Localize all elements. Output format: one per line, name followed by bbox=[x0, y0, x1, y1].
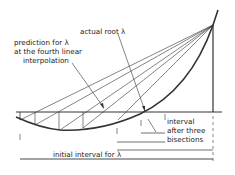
interval-label-2: after three bbox=[167, 126, 206, 135]
initial-interval-label: initial interval for λ bbox=[53, 150, 122, 159]
actual-root-label: actual root λ bbox=[80, 27, 126, 36]
prediction-label-2: at the fourth linear bbox=[14, 47, 82, 56]
prediction-label-3: interpolation bbox=[23, 56, 69, 65]
secant-line-4 bbox=[83, 25, 213, 128]
secant-line-5 bbox=[118, 25, 213, 120]
actual-root-arrowhead bbox=[142, 106, 145, 112]
actual-root-leader bbox=[118, 34, 145, 111]
interval-leader bbox=[148, 119, 156, 132]
interval-label-1: interval bbox=[167, 117, 194, 126]
root-finding-diagram: actual root λ prediction for λ at the fo… bbox=[0, 0, 235, 175]
prediction-arrowhead bbox=[100, 103, 104, 109]
interval-label-3: bisections bbox=[167, 135, 203, 144]
prediction-label-1: prediction for λ bbox=[14, 38, 70, 47]
